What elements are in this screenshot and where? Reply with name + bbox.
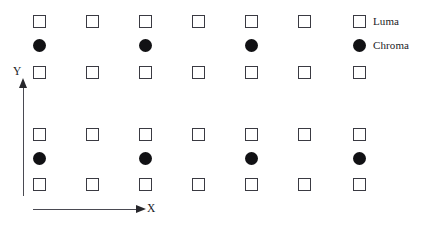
luma-sample-marker (192, 178, 205, 191)
chroma-sample-marker (245, 152, 258, 165)
luma-sample-marker (86, 178, 99, 191)
luma-sample-marker (86, 15, 99, 28)
luma-sample-marker (139, 128, 152, 141)
x-axis-label: X (147, 203, 156, 215)
chroma-sample-marker (33, 152, 46, 165)
luma-sample-marker (33, 128, 46, 141)
chroma-sample-marker (33, 39, 46, 52)
luma-sample-marker (33, 15, 46, 28)
luma-sample-marker (245, 15, 258, 28)
luma-sample-marker (353, 15, 366, 28)
luma-sample-marker (298, 66, 311, 79)
luma-sample-marker (353, 66, 366, 79)
luma-sample-marker (139, 178, 152, 191)
x-axis-arrowhead-icon (136, 205, 146, 213)
luma-sample-marker (192, 128, 205, 141)
chroma-sample-marker (353, 152, 366, 165)
chroma-sample-marker (245, 39, 258, 52)
luma-sample-marker (192, 15, 205, 28)
y-axis-arrowhead-icon (19, 78, 27, 88)
luma-sample-marker (33, 178, 46, 191)
chroma-sample-marker (139, 39, 152, 52)
figure-canvas: Y X Luma Chroma (0, 0, 431, 228)
y-axis-line (23, 86, 24, 196)
luma-sample-marker (33, 66, 46, 79)
luma-sample-marker (298, 128, 311, 141)
luma-sample-marker (245, 128, 258, 141)
luma-sample-marker (353, 128, 366, 141)
y-axis-label: Y (13, 66, 22, 78)
luma-sample-marker (298, 178, 311, 191)
chroma-sample-marker (139, 152, 152, 165)
luma-sample-marker (245, 178, 258, 191)
legend-label-luma: Luma (373, 16, 399, 27)
luma-sample-marker (139, 66, 152, 79)
chroma-sample-marker (353, 39, 366, 52)
x-axis-line (33, 209, 137, 210)
legend-label-chroma: Chroma (373, 40, 409, 51)
luma-sample-marker (353, 178, 366, 191)
luma-sample-marker (139, 15, 152, 28)
luma-sample-marker (192, 66, 205, 79)
luma-sample-marker (86, 66, 99, 79)
luma-sample-marker (245, 66, 258, 79)
luma-sample-marker (298, 15, 311, 28)
luma-sample-marker (86, 128, 99, 141)
